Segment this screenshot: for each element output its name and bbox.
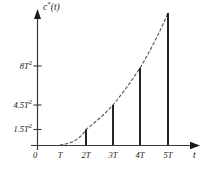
y-tick-label-1.5T2-exp: 2 [29, 122, 32, 129]
y-tick-label-4.5T2: 4.5T2 [0, 100, 32, 110]
y-tick-label-4.5T2-base: 4.5T [13, 100, 28, 110]
y-axis-label: c*(t) c*(t) [43, 2, 60, 12]
y-axis-label-arg: (t) [51, 2, 60, 12]
y-axis-arrowhead [34, 9, 41, 19]
plot-svg [0, 0, 211, 175]
y-tick-label-1.5T2-base: 1.5T [13, 124, 28, 134]
origin-label: 0 [27, 150, 43, 160]
y-tick-label-1.5T2: 1.5T2 [0, 124, 32, 134]
x-tick-label-4T: 4T [130, 150, 150, 160]
y-tick-label-8T2-base: 8T [20, 61, 29, 71]
figure-canvas: c*(t) c*(t) 8T2 4.5T2 1.5T2 0 T 2T 3T 4T… [0, 0, 211, 175]
y-tick-label-8T2: 8T2 [0, 61, 32, 71]
y-tick-label-4.5T2-exp: 2 [29, 98, 32, 105]
x-tick-label-2T: 2T [76, 150, 96, 160]
x-axis-arrowhead [190, 142, 200, 149]
x-axis-label: t [193, 150, 196, 160]
x-tick-label-3T: 3T [103, 150, 123, 160]
y-tick-label-8T2-exp: 2 [29, 59, 32, 66]
x-tick-label-5T: 5T [158, 150, 178, 160]
x-tick-label-T: T [52, 150, 68, 160]
envelope-curve-dashed [60, 13, 168, 145]
